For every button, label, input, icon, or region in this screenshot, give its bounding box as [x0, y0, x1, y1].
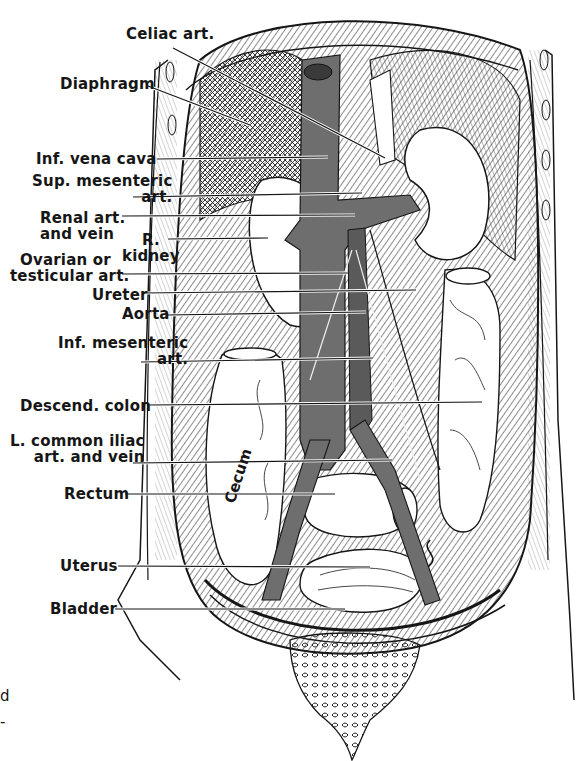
- label-line: Renal art.: [40, 210, 125, 226]
- callout-label-diaphragm: Diaphragm: [60, 76, 155, 92]
- callout-label-renal-art-vein: Renal art. and vein: [40, 210, 125, 242]
- label-line: Bladder: [50, 601, 117, 617]
- callout-label-ureter: Ureter: [92, 287, 148, 303]
- label-line: kidney: [122, 248, 180, 264]
- label-line: L. common iliac: [10, 433, 145, 449]
- label-line: Ovarian or: [10, 252, 129, 268]
- edge-fragment: -: [0, 714, 6, 730]
- label-line: Inf. vena cava: [36, 151, 157, 167]
- label-line: R.: [122, 232, 180, 248]
- label-line: art.: [32, 189, 173, 205]
- callout-label-l-common-iliac: L. common iliac art. and vein: [10, 433, 145, 465]
- label-line: Uterus: [60, 558, 118, 574]
- label-line: art.: [58, 351, 188, 367]
- label-line: Celiac art.: [126, 26, 214, 42]
- callout-label-aorta: Aorta: [122, 306, 170, 322]
- label-line: testicular art.: [10, 268, 129, 284]
- label-line: Inf. mesenteric: [58, 335, 188, 351]
- edge-fragment: d: [0, 688, 10, 704]
- callout-label-sup-mesenteric-art: Sup. mesenteric art.: [32, 173, 173, 205]
- bladder: [290, 633, 420, 760]
- label-line: and vein: [40, 226, 125, 242]
- callout-label-r-kidney: R. kidney: [122, 232, 180, 264]
- callout-label-descend-colon: Descend. colon: [20, 398, 151, 414]
- callout-label-inf-vena-cava: Inf. vena cava: [36, 151, 157, 167]
- anatomy-figure: Celiac art. Diaphragm Inf. vena cava Sup…: [0, 0, 579, 761]
- label-line: Sup. mesenteric: [32, 173, 173, 189]
- callout-label-uterus: Uterus: [60, 558, 118, 574]
- label-line: Diaphragm: [60, 76, 155, 92]
- label-line: Aorta: [122, 306, 170, 322]
- callout-label-inf-mesenteric-art: Inf. mesenteric art.: [58, 335, 188, 367]
- callout-label-celiac-art: Celiac art.: [126, 26, 214, 42]
- label-line: Ureter: [92, 287, 148, 303]
- label-line: art. and vein: [10, 449, 145, 465]
- label-line: Descend. colon: [20, 398, 151, 414]
- callout-label-rectum: Rectum: [64, 486, 129, 502]
- callout-label-bladder: Bladder: [50, 601, 117, 617]
- label-line: Rectum: [64, 486, 129, 502]
- abdomen-illustration: [0, 0, 579, 761]
- callout-label-ovarian-testicular-art: Ovarian or testicular art.: [10, 252, 129, 284]
